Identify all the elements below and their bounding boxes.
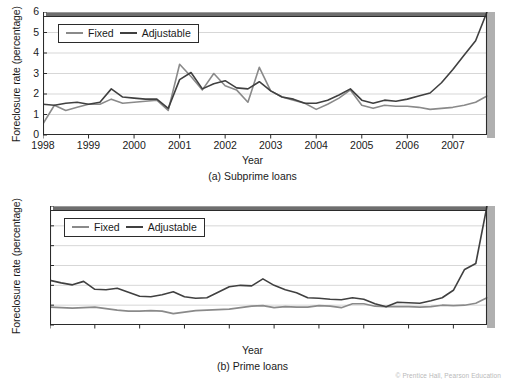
legend-label: Adjustable: [142, 27, 191, 39]
legend-line-swatch-icon: [66, 32, 83, 34]
x-tick-label: 2001: [158, 139, 202, 151]
y-tick-label: 2: [9, 87, 39, 99]
legend-item-fixed: Fixed: [72, 221, 120, 233]
legend-subprime: FixedAdjustable: [58, 24, 199, 43]
y-tick-label: 6: [9, 5, 39, 17]
x-axis-label-prime: Year: [0, 344, 505, 356]
legend-line-swatch-icon: [126, 226, 143, 228]
legend-label: Fixed: [88, 27, 114, 39]
caption-subprime: (a) Subprime loans: [0, 170, 505, 182]
y-tick-label: 4: [9, 46, 39, 58]
figure-subprime-loans: Foreclosure rate (percentage) 0123456 19…: [0, 0, 505, 192]
y-tick-label: 3: [9, 67, 39, 79]
legend-line-swatch-icon: [72, 226, 89, 228]
legend-label: Fixed: [94, 221, 120, 233]
x-axis-label-subprime: Year: [0, 154, 505, 166]
x-tick-label: 2004: [294, 139, 338, 151]
caption-prime: (b) Prime loans: [0, 360, 505, 372]
legend-item-fixed: Fixed: [66, 27, 114, 39]
y-tick-label: 1: [9, 108, 39, 120]
x-tick-label: 1998: [21, 139, 65, 151]
legend-label: Adjustable: [148, 221, 197, 233]
legend-prime: FixedAdjustable: [64, 218, 205, 237]
y-axis-label-prime: Foreclosure rate (percentage): [10, 198, 22, 334]
x-tick-label: 2006: [385, 139, 429, 151]
legend-line-swatch-icon: [120, 32, 137, 34]
figure-footnote: © Prentice Hall, Pearson Education: [0, 372, 505, 379]
x-tick-label: 2003: [249, 139, 293, 151]
x-tick-label: 2005: [340, 139, 384, 151]
y-tick-label: 5: [9, 26, 39, 38]
figure-prime-loans: Foreclosure rate (percentage) 00.20.40.6…: [0, 192, 505, 386]
x-tick-label: 2007: [431, 139, 475, 151]
legend-item-adjustable: Adjustable: [120, 27, 191, 39]
legend-item-adjustable: Adjustable: [126, 221, 197, 233]
x-tick-label: 2000: [112, 139, 156, 151]
x-tick-label: 2002: [203, 139, 247, 151]
x-tick-label: 1999: [67, 139, 111, 151]
